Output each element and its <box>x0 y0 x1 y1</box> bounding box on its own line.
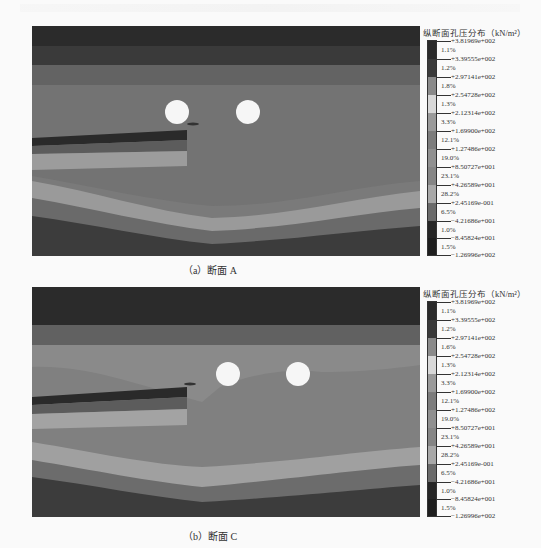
legend-tick: −1.26996e+002 <box>451 512 495 520</box>
legend-percent: 1.0% <box>441 487 456 495</box>
legend-tick: +1.69900e+002 <box>451 388 495 396</box>
legend-percent: 1.1% <box>441 307 456 315</box>
legend-tick: +3.39555e+002 <box>451 55 495 63</box>
legend-percent: 3.3% <box>441 118 456 126</box>
legend-percent: 1.3% <box>441 100 456 108</box>
caption-section-c: （b）断面 C <box>0 528 420 543</box>
legend-percent: 1.8% <box>441 82 456 90</box>
legend-percent: 1.5% <box>441 504 456 512</box>
legend-tick: +8.50727e+001 <box>451 424 495 432</box>
legend-tick: +2.54728e+002 <box>451 352 495 360</box>
legend-percent: 1.0% <box>441 226 456 234</box>
caption-section-a: （a）断面 A <box>0 262 420 277</box>
legend-percent: 1.1% <box>441 46 456 54</box>
legend-percent: 12.1% <box>441 397 459 405</box>
legend-percent: 1.5% <box>441 243 456 251</box>
legend-percent: 28.2% <box>441 451 459 459</box>
legend-tick: +3.81969e+002 <box>451 298 495 306</box>
legend-tick: −4.21686e+001 <box>451 478 495 486</box>
color-scale-bar <box>427 40 437 256</box>
legend-tick: +2.12314e+002 <box>451 109 495 117</box>
legend-tick: +3.39555e+002 <box>451 316 495 324</box>
legend-percent: 19.0% <box>441 154 459 162</box>
legend-percent: 6.5% <box>441 208 456 216</box>
legend-percent: 3.3% <box>441 379 456 387</box>
legend-percent: 1.2% <box>441 325 456 333</box>
legend-tick: +2.54728e+002 <box>451 91 495 99</box>
legend-tick: +2.97141e+002 <box>451 334 495 342</box>
legend-tick: +2.97141e+002 <box>451 73 495 81</box>
legend-percent: 1.3% <box>441 361 456 369</box>
color-scale-bar <box>427 301 437 517</box>
legend-tick: −8.45824e+001 <box>451 234 495 242</box>
legend-tick: +4.26589e+001 <box>451 442 495 450</box>
legend-tick: +1.27486e+002 <box>451 406 495 414</box>
contour-plot-section-a <box>32 26 420 256</box>
legend-tick: +8.50727e+001 <box>451 163 495 171</box>
legend-tick: −8.45824e+001 <box>451 495 495 503</box>
legend-tick: +3.81969e+002 <box>451 37 495 45</box>
legend-tick: +4.26589e+001 <box>451 181 495 189</box>
legend-tick: +1.27486e+002 <box>451 145 495 153</box>
legend-tick: +2.45169e-001 <box>451 460 494 468</box>
page-header-text-faded <box>20 4 520 12</box>
legend-percent: 19.0% <box>441 415 459 423</box>
legend-percent: 28.2% <box>441 190 459 198</box>
legend-tick: +1.69900e+002 <box>451 127 495 135</box>
legend-percent: 23.1% <box>441 433 459 441</box>
legend-tick: −4.21686e+001 <box>451 217 495 225</box>
legend-percent: 12.1% <box>441 136 459 144</box>
legend-section-a: 纵断面孔压分布（kN/m²） +3.81969e+002 1.1% +3.395… <box>420 26 541 266</box>
legend-tick: +2.12314e+002 <box>451 370 495 378</box>
legend-percent: 6.5% <box>441 469 456 477</box>
legend-percent: 1.6% <box>441 343 456 351</box>
legend-section-c: 纵断面孔压分布（kN/m²） +3.81969e+002 1.1% +3.395… <box>420 287 541 527</box>
legend-tick: +2.45169e-001 <box>451 199 494 207</box>
contour-plot-section-c <box>32 287 420 517</box>
legend-tick: −1.26996e+002 <box>451 251 495 259</box>
legend-percent: 23.1% <box>441 172 459 180</box>
legend-percent: 1.2% <box>441 64 456 72</box>
